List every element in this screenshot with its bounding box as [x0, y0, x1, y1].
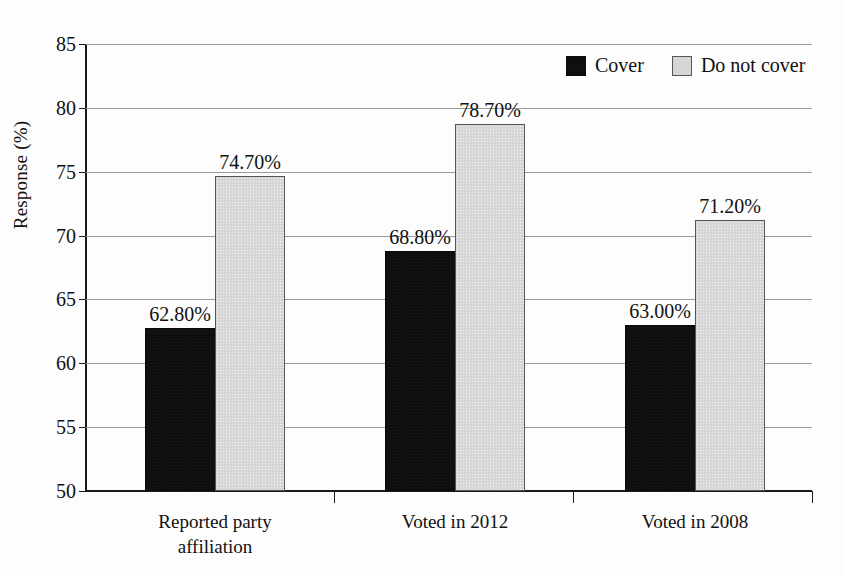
y-tick-mark: [79, 491, 86, 492]
y-axis-line: [85, 44, 87, 492]
gridline: [86, 108, 812, 109]
x-tick-mark: [573, 491, 574, 503]
category-label-line: Voted in 2012: [402, 509, 508, 534]
bar-value-label: 71.20%: [699, 195, 761, 218]
gridline: [86, 172, 812, 173]
bar-do-not-cover[interactable]: 71.20%: [695, 220, 765, 491]
y-tick-mark: [79, 363, 86, 364]
y-tick-mark: [79, 172, 86, 173]
bar-value-label: 74.70%: [219, 151, 281, 174]
gridline: [86, 44, 812, 45]
bar-value-label: 63.00%: [629, 300, 691, 323]
y-tick-mark: [79, 44, 86, 45]
category-label-line: Voted in 2008: [642, 509, 748, 534]
y-tick-label: 50: [32, 480, 76, 503]
category-label-line: Reported party: [158, 509, 271, 534]
category-label-line: affiliation: [158, 534, 271, 559]
x-tick-mark: [812, 491, 813, 503]
bar-value-label: 78.70%: [459, 99, 521, 122]
chart-figure: Response (%) Cover Do not cover 50556065…: [0, 0, 844, 575]
y-tick-label: 55: [32, 416, 76, 439]
y-tick-label: 60: [32, 352, 76, 375]
bar-value-label: 68.80%: [389, 226, 451, 249]
bar-cover[interactable]: 62.80%: [145, 328, 215, 491]
y-tick-mark: [79, 108, 86, 109]
bar-do-not-cover[interactable]: 78.70%: [455, 124, 525, 491]
category-label: Voted in 2008: [642, 509, 748, 534]
y-tick-label: 75: [32, 160, 76, 183]
y-tick-mark: [79, 299, 86, 300]
category-label: Reported partyaffiliation: [158, 509, 271, 559]
y-tick-label: 70: [32, 224, 76, 247]
x-tick-mark: [334, 491, 335, 503]
y-tick-label: 65: [32, 288, 76, 311]
plot-area: 5055606570758085 62.80%74.70%68.80%78.70…: [86, 44, 812, 491]
y-tick-mark: [79, 236, 86, 237]
y-tick-mark: [79, 427, 86, 428]
bar-cover[interactable]: 63.00%: [625, 325, 695, 491]
bar-value-label: 62.80%: [149, 303, 211, 326]
y-tick-label: 80: [32, 96, 76, 119]
category-label: Voted in 2012: [402, 509, 508, 534]
y-tick-label: 85: [32, 33, 76, 56]
bar-cover[interactable]: 68.80%: [385, 251, 455, 491]
bar-do-not-cover[interactable]: 74.70%: [215, 176, 285, 491]
